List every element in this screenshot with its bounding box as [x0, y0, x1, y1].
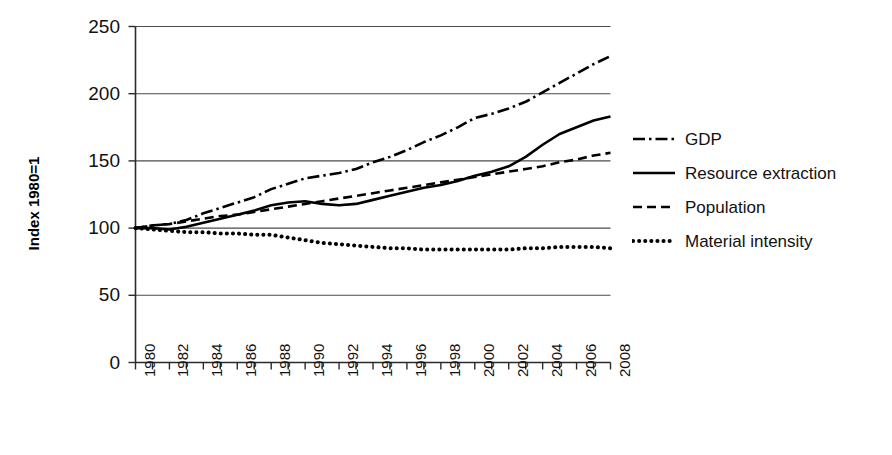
legend-item[interactable]: Material intensity — [632, 224, 890, 258]
x-tick-label: 2000 — [481, 343, 496, 376]
x-tick-label: 1992 — [345, 343, 360, 376]
axis-lines — [129, 27, 611, 363]
legend-item[interactable]: GDP — [632, 122, 890, 156]
legend-item-label: Material intensity — [685, 233, 813, 250]
series-line-gdp — [136, 56, 611, 228]
x-tick-label: 1980 — [142, 343, 157, 376]
x-tick-label: 2008 — [617, 343, 632, 376]
x-tick-label: 1984 — [209, 343, 224, 376]
chart-legend: GDPResource extractionPopulationMaterial… — [632, 122, 890, 258]
chart-figure: Index 1980=1 050100150200250 19801982198… — [0, 0, 892, 455]
legend-line-sample-icon — [632, 199, 676, 215]
y-tick-label: 250 — [62, 17, 120, 36]
x-tick-label: 2004 — [549, 343, 564, 376]
x-tick-label: 1990 — [311, 343, 326, 376]
legend-line-sample-icon — [632, 233, 676, 249]
x-tick-label: 1988 — [277, 343, 292, 376]
legend-item-label: GDP — [685, 131, 722, 148]
x-axis-tick-marks — [136, 363, 611, 370]
y-tick-label: 150 — [62, 151, 120, 170]
y-tick-label: 0 — [62, 353, 120, 372]
legend-item-label: Population — [685, 199, 765, 216]
series-line-material-intensity — [136, 228, 611, 250]
x-tick-label: 1998 — [447, 343, 462, 376]
series-layer — [136, 56, 611, 250]
y-tick-label: 50 — [62, 285, 120, 304]
x-tick-label: 1982 — [175, 343, 190, 376]
x-tick-label: 1996 — [413, 343, 428, 376]
x-tick-label: 1986 — [243, 343, 258, 376]
legend-item-label: Resource extraction — [685, 165, 836, 182]
legend-line-sample-icon — [632, 131, 676, 147]
legend-line-sample-icon — [632, 165, 676, 181]
y-axis-title: Index 1980=1 — [25, 124, 42, 284]
x-tick-label: 1994 — [379, 343, 394, 376]
x-tick-label: 2006 — [583, 343, 598, 376]
legend-item[interactable]: Population — [632, 190, 890, 224]
y-tick-label: 200 — [62, 84, 120, 103]
legend-item[interactable]: Resource extraction — [632, 156, 890, 190]
series-line-population — [136, 153, 611, 228]
y-tick-label: 100 — [62, 218, 120, 237]
gridlines — [136, 27, 611, 363]
x-tick-label: 2002 — [515, 343, 530, 376]
